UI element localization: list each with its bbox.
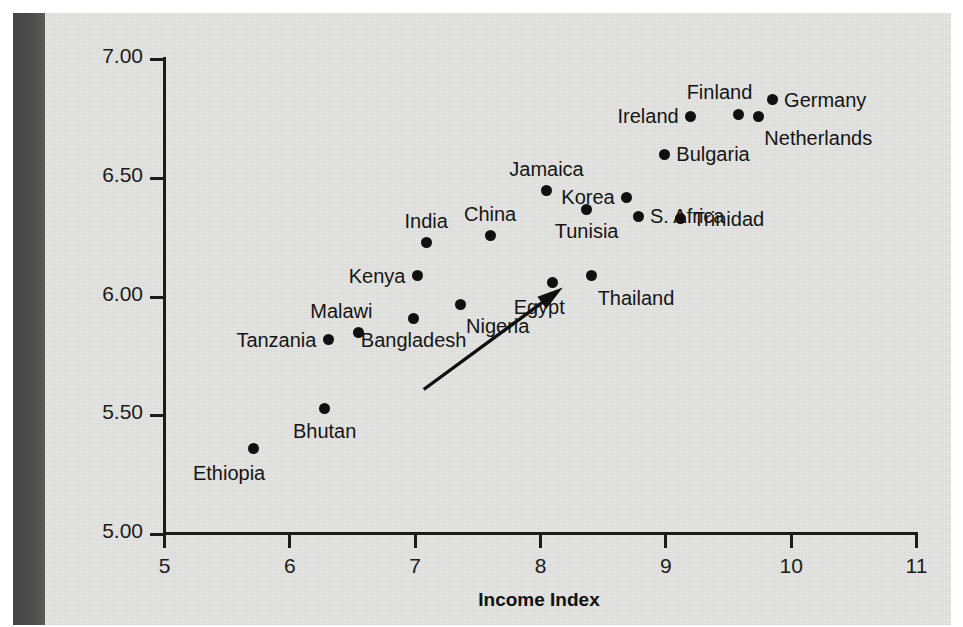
data-point-label: Malawi <box>310 299 372 322</box>
data-point-label: Finland <box>687 81 753 104</box>
y-tick-label: 5.50 <box>48 400 143 424</box>
data-point <box>586 270 597 281</box>
x-tick-label: 7 <box>374 554 457 578</box>
x-tick-mark <box>539 533 542 548</box>
x-tick-mark <box>163 533 166 548</box>
x-tick-label: 8 <box>499 554 582 578</box>
x-tick-label: 5 <box>123 554 206 578</box>
data-point <box>753 111 764 122</box>
data-point <box>412 270 423 281</box>
data-point <box>421 237 432 248</box>
data-point-label: Netherlands <box>764 127 872 150</box>
data-point <box>767 94 778 105</box>
y-tick-mark <box>150 296 164 299</box>
data-point-label: Bangladesh <box>361 329 467 352</box>
data-point-label: Germany <box>784 88 866 111</box>
figure-page: Environmental Performance Index 5.005.50… <box>0 0 963 627</box>
y-tick-label: 6.50 <box>48 163 143 187</box>
data-point <box>547 277 558 288</box>
data-point-label: Bhutan <box>293 420 356 443</box>
x-tick-mark <box>664 533 667 548</box>
data-point-label: Egypt <box>514 295 565 318</box>
data-point-label: India <box>405 210 448 233</box>
y-tick-label: 5.00 <box>48 519 143 543</box>
data-point <box>541 185 552 196</box>
data-point-label: Korea <box>561 186 614 209</box>
data-point <box>485 230 496 241</box>
y-tick-mark <box>150 58 164 61</box>
y-tick-mark <box>150 533 164 536</box>
y-tick-mark <box>150 177 164 180</box>
data-point <box>319 403 330 414</box>
x-tick-label: 11 <box>875 554 958 578</box>
data-point-label: Ethiopia <box>193 461 265 484</box>
y-tick-label: 7.00 <box>48 44 143 68</box>
x-tick-mark <box>790 533 793 548</box>
x-tick-label: 6 <box>248 554 331 578</box>
x-tick-mark <box>414 533 417 548</box>
data-point-label: Tanzania <box>236 328 316 351</box>
data-point <box>733 109 744 120</box>
scatter-chart: Environmental Performance Index 5.005.50… <box>0 0 963 627</box>
data-point <box>408 313 419 324</box>
data-point-label: Ireland <box>617 105 678 128</box>
data-point-label: Thailand <box>598 286 675 309</box>
data-point-label: Kenya <box>349 264 406 287</box>
data-point-label: Tunisia <box>555 220 619 243</box>
x-tick-label: 10 <box>750 554 833 578</box>
data-point <box>633 211 644 222</box>
data-point <box>685 111 696 122</box>
x-tick-label: 9 <box>624 554 707 578</box>
data-point-label: Trinidad <box>693 207 765 230</box>
data-point-label: Bulgaria <box>676 143 749 166</box>
y-tick-mark <box>150 414 164 417</box>
data-point <box>659 149 670 160</box>
data-point <box>323 334 334 345</box>
data-point <box>621 192 632 203</box>
x-tick-mark <box>288 533 291 548</box>
data-point-label: Jamaica <box>509 158 583 181</box>
y-tick-label: 6.00 <box>48 282 143 306</box>
x-axis-title: Income Index <box>163 589 915 611</box>
x-tick-mark <box>915 533 918 548</box>
data-point <box>455 299 466 310</box>
data-point-label: China <box>464 203 516 226</box>
data-point <box>248 443 259 454</box>
